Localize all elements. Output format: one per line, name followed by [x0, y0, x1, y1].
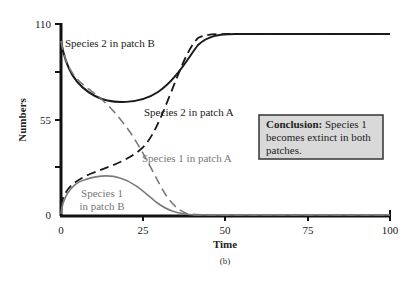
- x-tick-25: 25: [138, 224, 150, 236]
- x-axis-title: Time: [213, 238, 237, 250]
- conclusion-bold: Conclusion:: [266, 118, 322, 130]
- label-species2-patchB: Species 2 in patch B: [65, 37, 155, 49]
- label-species1-patchA: Species 1 in patch A: [142, 152, 232, 164]
- y-axis-title: Numbers: [16, 98, 28, 142]
- label-species1-patchB-line2: in patch B: [79, 200, 124, 212]
- x-tick-75: 75: [303, 224, 315, 236]
- y-tick-110: 110: [35, 18, 52, 30]
- x-tick-0: 0: [58, 224, 64, 236]
- x-tick-100: 100: [382, 224, 399, 236]
- y-tick-55: 55: [40, 114, 52, 126]
- figure-caption: (b): [220, 256, 231, 266]
- label-species2-patchA: Species 2 in patch A: [144, 106, 234, 118]
- label-species1-patchB-line1: Species 1: [81, 187, 123, 199]
- x-tick-50: 50: [220, 224, 232, 236]
- conclusion-text: Conclusion: Species 1 becomes extinct in…: [266, 118, 384, 157]
- y-tick-0: 0: [46, 209, 52, 221]
